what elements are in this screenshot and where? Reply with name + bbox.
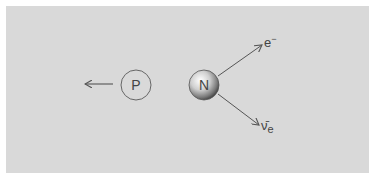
antineutrino-arrow — [218, 94, 259, 125]
electron-arrow — [218, 45, 262, 76]
antineutrino-label: ν̄e — [261, 118, 274, 135]
neutron: N — [189, 70, 219, 100]
neutron-label: N — [199, 77, 209, 93]
proton: P — [121, 70, 151, 100]
svg-text:e−: e− — [264, 34, 277, 50]
svg-text:ν̄e: ν̄e — [261, 118, 274, 135]
beta-decay-diagram: P N e− ν̄e — [0, 0, 375, 181]
proton-label: P — [131, 77, 140, 93]
electron-label: e− — [264, 34, 277, 50]
